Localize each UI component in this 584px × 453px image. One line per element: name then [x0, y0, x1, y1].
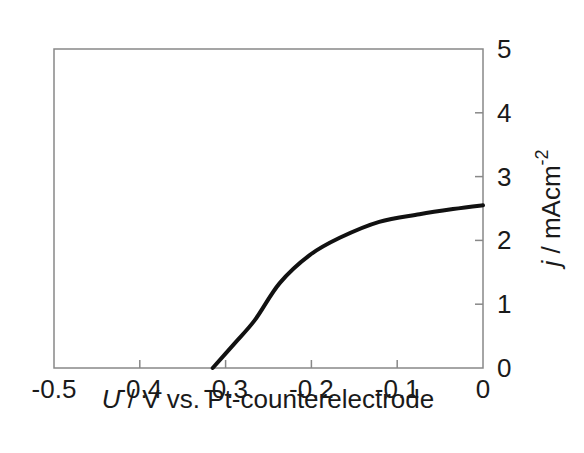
y-tick-label: 4	[497, 98, 511, 128]
y-tick-label: 2	[497, 225, 511, 255]
y-tick-label: 1	[497, 289, 511, 319]
y-tick-label: 5	[497, 34, 511, 64]
x-tick-label: 0	[476, 374, 490, 404]
jv-chart: -0.5-0.4-0.3-0.2-0.10 012345 U / V vs. P…	[0, 0, 584, 453]
data-series-line	[213, 205, 483, 368]
x-tick-label: -0.5	[32, 374, 77, 404]
y-axis-title: j / mAcm-2	[532, 149, 566, 269]
y-axis-ticks: 012345	[475, 34, 511, 383]
y-tick-label: 0	[497, 353, 511, 383]
plot-frame	[54, 49, 483, 368]
x-axis-title: U / V vs. Pt-counterelectrode	[102, 384, 434, 414]
y-tick-label: 3	[497, 162, 511, 192]
